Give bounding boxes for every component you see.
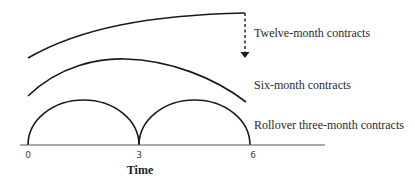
six-month-curve bbox=[28, 59, 246, 102]
axis-title-time: Time bbox=[127, 164, 153, 176]
three-month-arc-2 bbox=[139, 100, 250, 145]
label-twelve-month: Twelve-month contracts bbox=[254, 27, 370, 39]
label-three-month: Rollover three-month contracts bbox=[254, 119, 404, 131]
tick-0: 0 bbox=[25, 151, 31, 160]
contract-horizon-diagram: Twelve-month contracts Six-month contrac… bbox=[0, 0, 415, 184]
tick-6: 6 bbox=[250, 151, 256, 160]
tick-3: 3 bbox=[136, 151, 142, 160]
three-month-arc-1 bbox=[28, 100, 139, 145]
twelve-month-curve bbox=[28, 13, 245, 58]
dashed-down-arrow-icon bbox=[241, 13, 250, 58]
label-six-month: Six-month contracts bbox=[254, 79, 351, 91]
